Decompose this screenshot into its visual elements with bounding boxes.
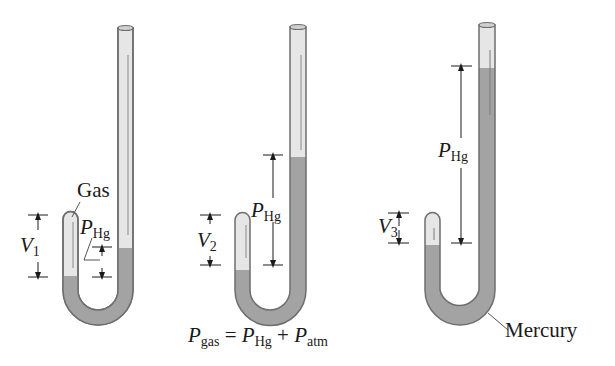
phg-label-2: PHg [251, 200, 281, 224]
mercury-fill-3 [425, 68, 495, 325]
j-tube-2 [235, 25, 306, 326]
mercury-label: Mercury [505, 320, 577, 341]
tube-opening-3 [479, 23, 495, 28]
v2-label: V2 [197, 230, 217, 254]
tube-opening-1 [118, 26, 133, 31]
j-tube-3 [425, 23, 495, 326]
v1-label: V1 [20, 235, 40, 259]
pressure-equation: Pgas = PHg + Patm [188, 325, 328, 349]
gas-label: Gas [77, 180, 110, 201]
v3-label: V3 [378, 216, 398, 240]
j-tube-1 [63, 26, 133, 326]
phg-label-3: PHg [438, 140, 468, 164]
tube-opening-2 [290, 25, 306, 30]
phg-dimension-1 [84, 238, 112, 277]
phg-label-1: PHg [80, 217, 110, 241]
